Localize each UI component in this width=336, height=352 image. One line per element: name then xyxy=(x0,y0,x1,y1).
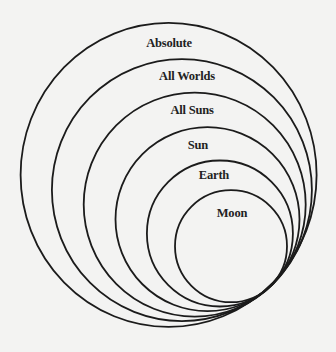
circle-label-moon: Moon xyxy=(217,206,248,220)
circle-label-absolute: Absolute xyxy=(146,36,192,50)
diagram-canvas: AbsoluteAll WorldsAll SunsSunEarthMoon A… xyxy=(0,0,336,352)
circle-label-all-worlds: All Worlds xyxy=(159,69,215,83)
nested-circles-diagram: AbsoluteAll WorldsAll SunsSunEarthMoon xyxy=(0,0,336,352)
circle-label-sun: Sun xyxy=(188,138,209,152)
circle-label-all-suns: All Suns xyxy=(170,103,214,117)
circle-label-earth: Earth xyxy=(199,168,229,182)
